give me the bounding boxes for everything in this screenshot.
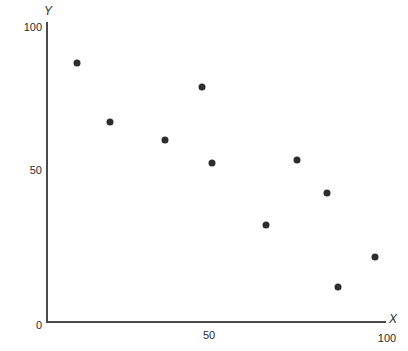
data-point bbox=[293, 157, 300, 164]
data-point bbox=[73, 60, 80, 67]
data-points-layer bbox=[0, 0, 408, 351]
data-point bbox=[371, 254, 378, 261]
data-point bbox=[198, 83, 205, 90]
data-point bbox=[324, 189, 331, 196]
data-point bbox=[107, 119, 114, 126]
scatter-plot-figure: 100 50 0 50 100 Y X bbox=[0, 0, 408, 351]
data-point bbox=[161, 136, 168, 143]
data-point bbox=[263, 221, 270, 228]
data-point bbox=[209, 160, 216, 167]
data-point bbox=[334, 283, 341, 290]
